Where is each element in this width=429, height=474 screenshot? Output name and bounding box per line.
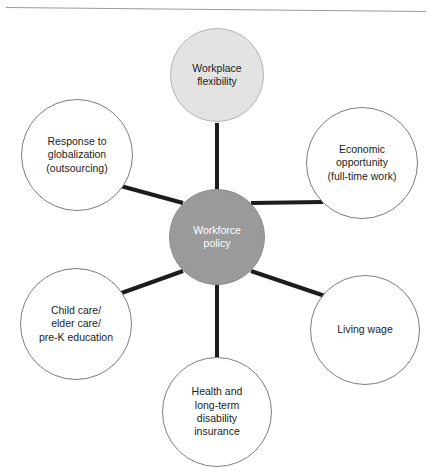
- node-label-living-wage: Living wage: [337, 323, 392, 336]
- node-living-wage[interactable]: Living wage: [310, 275, 420, 385]
- node-workplace-flexibility[interactable]: Workplace flexibility: [170, 28, 264, 122]
- connector-hub-to-economic-opportunity: [251, 202, 323, 203]
- node-health-disability-insurance[interactable]: Health and long-term disability insuranc…: [162, 357, 272, 467]
- diagram-canvas: Workplace flexibility Economic opportuni…: [0, 0, 429, 474]
- node-label-workplace-flexibility: Workplace flexibility: [192, 62, 241, 89]
- node-label-response-to-globalization: Response to globalization (outsourcing): [46, 135, 107, 175]
- node-workforce-policy-hub[interactable]: Workforce policy: [169, 189, 265, 285]
- node-label-health-disability-insurance: Health and long-term disability insuranc…: [192, 385, 243, 439]
- node-label-child-elder-care: Child care/ elder care/ pre-K education: [39, 304, 113, 344]
- connector-hub-to-child-elder-care: [116, 271, 183, 295]
- node-response-to-globalization[interactable]: Response to globalization (outsourcing): [21, 99, 133, 211]
- node-economic-opportunity[interactable]: Economic opportunity (full-time work): [306, 107, 418, 219]
- node-child-elder-care[interactable]: Child care/ elder care/ pre-K education: [20, 268, 132, 380]
- node-label-workforce-policy: Workforce policy: [193, 224, 241, 251]
- node-label-economic-opportunity: Economic opportunity (full-time work): [328, 143, 397, 183]
- connector-hub-to-living-wage: [251, 271, 325, 296]
- connector-hub-to-response-globalization: [117, 185, 183, 203]
